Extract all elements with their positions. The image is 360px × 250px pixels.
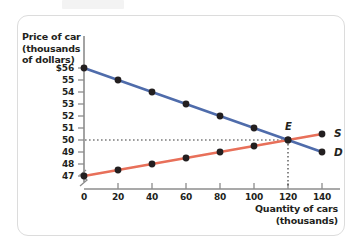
- y-tick-label: 53: [38, 99, 74, 109]
- y-tick-label: 51: [38, 123, 74, 133]
- y-tick-label: 54: [38, 87, 74, 97]
- equilibrium-label: E: [285, 121, 292, 132]
- y-tick-label: $56: [38, 63, 74, 73]
- x-tick-label: 20: [100, 192, 136, 202]
- data-point-marker: [183, 101, 190, 108]
- y-axis-title-line-1: Price of car: [22, 31, 81, 43]
- y-tick-label: 47: [38, 171, 74, 181]
- x-tick-label: 120: [270, 192, 306, 202]
- x-tick-label: 80: [202, 192, 238, 202]
- y-tick-label: 49: [38, 147, 74, 157]
- y-tick-label: 55: [38, 75, 74, 85]
- data-point-marker: [319, 149, 326, 156]
- data-point-marker: [251, 125, 258, 132]
- x-tick-label: 100: [236, 192, 272, 202]
- x-tick-label: 60: [168, 192, 204, 202]
- data-point-marker: [149, 161, 156, 168]
- x-axis-ticks: [118, 183, 322, 189]
- data-point-marker: [319, 131, 326, 138]
- x-axis-title-line-1: Quantity of cars: [248, 203, 338, 215]
- x-tick-label: 40: [134, 192, 170, 202]
- data-point-marker: [285, 137, 292, 144]
- x-tick-label: 0: [66, 192, 102, 202]
- data-point-marker: [217, 149, 224, 156]
- y-axis-title: Price of car (thousands of dollars): [22, 31, 81, 66]
- y-axis-title-line-2: (thousands: [22, 43, 81, 55]
- data-point-marker: [81, 173, 88, 180]
- data-point-marker: [217, 113, 224, 120]
- data-point-marker: [115, 167, 122, 174]
- demand-curve-label: D: [334, 146, 343, 158]
- x-axis-title: Quantity of cars (thousands): [248, 203, 338, 226]
- supply-curve-label: S: [334, 127, 341, 139]
- y-axis-ticks: [78, 68, 84, 176]
- data-point-marker: [251, 143, 258, 150]
- x-axis-title-line-2: (thousands): [248, 215, 338, 227]
- y-tick-label: 52: [38, 111, 74, 121]
- data-point-marker: [81, 65, 88, 72]
- x-tick-label: 140: [304, 192, 340, 202]
- data-point-marker: [115, 77, 122, 84]
- chart-figure: Price of car (thousands of dollars) Quan…: [0, 0, 360, 250]
- y-tick-label: 48: [38, 159, 74, 169]
- data-point-marker: [183, 155, 190, 162]
- data-point-marker: [149, 89, 156, 96]
- y-tick-label: 50: [38, 135, 74, 145]
